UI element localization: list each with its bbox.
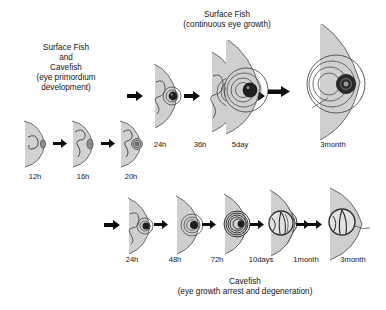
tick-surface-5day: 5day bbox=[218, 140, 262, 149]
cavefish-title: Cavefish (eye growth arrest and degenera… bbox=[130, 277, 360, 297]
stage-embryo-16h bbox=[66, 119, 100, 169]
tick-cave-1month: 1month bbox=[282, 255, 330, 264]
eye-development-diagram: Surface Fish (continuous eye growth) Sur… bbox=[0, 0, 386, 310]
tick-cave-10days: 10days bbox=[237, 255, 285, 264]
arrow-into-cave-24h bbox=[104, 219, 120, 231]
stage-surface-24h bbox=[144, 62, 184, 130]
tick-embryo-12h: 12h bbox=[10, 172, 60, 181]
stage-cave-72h bbox=[213, 192, 255, 256]
stage-surface-5day bbox=[206, 38, 272, 138]
stage-surface-3month bbox=[292, 22, 378, 144]
primordium-title: Surface Fish and Cavefish (eye primordiu… bbox=[8, 43, 124, 93]
stage-embryo-12h bbox=[18, 119, 52, 169]
arrow-into-surface-24h bbox=[127, 90, 143, 102]
tick-embryo-16h: 16h bbox=[58, 172, 108, 181]
tick-cave-24h: 24h bbox=[112, 255, 152, 264]
surface-fish-title: Surface Fish (continuous eye growth) bbox=[152, 10, 302, 30]
stage-cave-24h bbox=[119, 196, 157, 256]
stage-cave-48h bbox=[166, 194, 206, 256]
tick-cave-48h: 48h bbox=[155, 255, 195, 264]
tick-embryo-20h: 20h bbox=[106, 172, 156, 181]
stage-cave-1month bbox=[256, 188, 306, 258]
tick-surface-36h: 36h bbox=[178, 140, 222, 149]
arrow-embryo-12h-16h bbox=[53, 138, 67, 149]
tick-surface-24h: 24h bbox=[138, 140, 182, 149]
tick-surface-3month: 3month bbox=[306, 140, 360, 149]
arrow-surface-5day-3month bbox=[268, 85, 290, 98]
tick-cave-3month: 3month bbox=[328, 255, 378, 264]
tick-cave-72h: 72h bbox=[197, 255, 237, 264]
arrow-embryo-16h-20h bbox=[101, 138, 115, 149]
stage-cave-3month bbox=[318, 186, 376, 262]
